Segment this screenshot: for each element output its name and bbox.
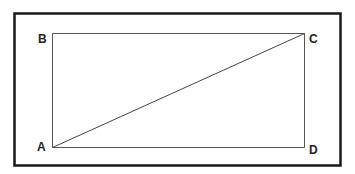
diagonal-ac: [53, 34, 305, 148]
vertex-label-a: A: [37, 140, 46, 154]
vertex-label-c: C: [309, 32, 318, 46]
diagram-canvas: B C A D: [0, 0, 355, 174]
vertex-label-b: B: [38, 32, 47, 46]
vertex-label-d: D: [309, 143, 318, 157]
